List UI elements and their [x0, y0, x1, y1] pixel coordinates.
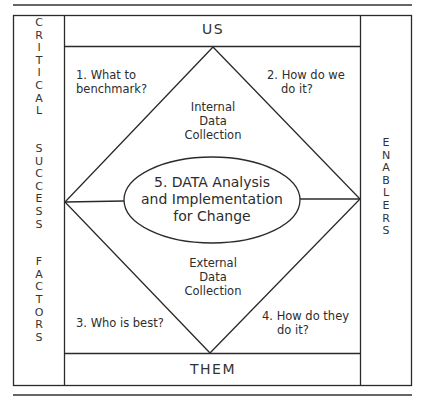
internal-data-collection-label: Internal Data Collection	[163, 100, 263, 142]
vertical-letter: F	[36, 256, 42, 269]
vertical-letter: A	[382, 162, 390, 175]
quadrant-4-line2: do it?	[262, 323, 349, 337]
internal-line2: Data	[163, 114, 263, 128]
quadrant-4-line1: 4. How do they	[262, 309, 349, 323]
quadrant-1-line1: 1. What to	[76, 68, 147, 82]
internal-line1: Internal	[163, 100, 263, 114]
vertical-letter: I	[37, 42, 40, 55]
external-line1: External	[163, 256, 263, 270]
enablers-label: ENABLERS	[361, 137, 411, 238]
quadrant-1-label: 1. What to benchmark?	[76, 68, 147, 96]
quadrant-3-label: 3. Who is best?	[76, 316, 164, 330]
benchmarking-diagram: US THEM CRITICALSUCCESSFACTORS ENABLERS …	[0, 0, 423, 400]
quadrant-3-line1: 3. Who is best?	[76, 316, 164, 330]
vertical-letter: E	[383, 200, 390, 213]
vertical-letter: C	[35, 168, 43, 181]
vertical-letter: C	[35, 17, 43, 30]
quadrant-4-label: 4. How do they do it?	[262, 309, 349, 337]
vertical-letter: E	[383, 137, 390, 150]
vertical-letter: L	[36, 105, 42, 118]
center-line1: 5. DATA Analysis	[122, 174, 302, 191]
vertical-letter: S	[36, 219, 43, 232]
quadrant-2-label: 2. How do we do it?	[267, 68, 345, 96]
center-line3: for Change	[122, 208, 302, 225]
quadrant-2-line1: 2. How do we	[267, 68, 345, 82]
vertical-letter: R	[35, 319, 43, 332]
vertical-letter: T	[36, 294, 43, 307]
vertical-letter: S	[36, 143, 43, 156]
them-label: THEM	[65, 361, 361, 377]
quadrant-2-line2: do it?	[267, 82, 345, 96]
vertical-letter: S	[383, 225, 390, 238]
center-line2: and Implementation	[122, 191, 302, 208]
vertical-letter: S	[36, 206, 43, 219]
quadrant-1-line2: benchmark?	[76, 82, 147, 96]
vertical-letter: C	[35, 80, 43, 93]
external-line3: Collection	[163, 284, 263, 298]
us-label: US	[65, 21, 361, 37]
internal-line3: Collection	[163, 128, 263, 142]
center-analysis-label: 5. DATA Analysis and Implementation for …	[122, 174, 302, 225]
vertical-letter: S	[36, 332, 43, 345]
external-line2: Data	[163, 270, 263, 284]
left-connector	[65, 201, 124, 202]
external-data-collection-label: External Data Collection	[163, 256, 263, 298]
critical-success-factors-label: CRITICALSUCCESSFACTORS	[14, 17, 64, 344]
